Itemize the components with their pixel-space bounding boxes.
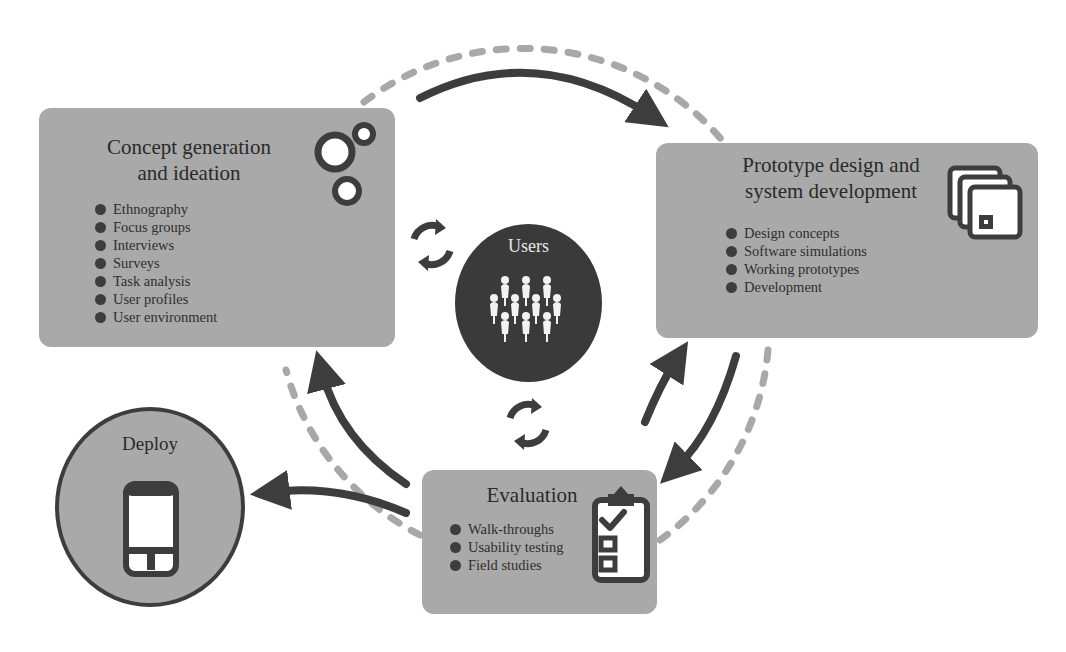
list-item: Walk-throughs: [450, 520, 563, 538]
arrow-concept-to-prototype: [420, 73, 650, 115]
list-item: Usability testing: [450, 538, 563, 556]
stacked-windows-icon: [946, 165, 1026, 241]
cycle-icon: [510, 398, 546, 450]
bullet-icon: [726, 282, 737, 293]
bullet-icon: [726, 264, 737, 275]
prototype-methods-list: Design concepts Software simulations Wor…: [726, 224, 867, 296]
bullet-icon: [95, 222, 106, 233]
list-item: Design concepts: [726, 224, 867, 242]
concept-title: Concept generation and ideation: [79, 134, 299, 186]
list-item: User profiles: [95, 290, 217, 308]
bullet-icon: [95, 204, 106, 215]
connected-circles-icon: [313, 116, 385, 212]
bullet-icon: [95, 312, 106, 323]
list-item: Surveys: [95, 254, 217, 272]
arrow-evaluation-to-deploy: [272, 490, 406, 513]
concept-generation-box: Concept generation and ideation Ethnogra…: [39, 108, 395, 347]
list-item: Task analysis: [95, 272, 217, 290]
bullet-icon: [95, 276, 106, 287]
people-group-icon: [488, 276, 570, 346]
cycle-icon: [414, 219, 450, 271]
list-item: Development: [726, 278, 867, 296]
bullet-icon: [95, 258, 106, 269]
evaluation-methods-list: Walk-throughs Usability testing Field st…: [450, 520, 563, 574]
arrow-evaluation-to-prototype: [645, 360, 676, 422]
list-item: Focus groups: [95, 218, 217, 236]
clipboard-checklist-icon: [590, 484, 652, 584]
list-item: Interviews: [95, 236, 217, 254]
evaluation-box: Evaluation Walk-throughs Usability testi…: [422, 470, 657, 614]
bullet-icon: [450, 524, 461, 535]
bullet-icon: [726, 246, 737, 257]
prototype-design-box: Prototype design and system development …: [656, 143, 1038, 338]
deploy-stage: Deploy: [55, 407, 245, 607]
deploy-label: Deploy: [59, 433, 241, 455]
users-label: Users: [455, 236, 602, 257]
list-item: Working prototypes: [726, 260, 867, 278]
bullet-icon: [726, 228, 737, 239]
bullet-icon: [450, 560, 461, 571]
list-item: User environment: [95, 308, 217, 326]
list-item: Ethnography: [95, 200, 217, 218]
concept-methods-list: Ethnography Focus groups Interviews Surv…: [95, 200, 217, 326]
smartphone-icon: [123, 481, 179, 577]
prototype-title: Prototype design and system development: [716, 152, 946, 204]
list-item: Software simulations: [726, 242, 867, 260]
arrow-prototype-to-evaluation: [676, 356, 736, 468]
arrow-evaluation-to-concept: [322, 372, 406, 484]
users-hub: Users: [455, 224, 602, 382]
list-item: Field studies: [450, 556, 563, 574]
evaluation-title: Evaluation: [482, 482, 582, 508]
bullet-icon: [450, 542, 461, 553]
bullet-icon: [95, 294, 106, 305]
bullet-icon: [95, 240, 106, 251]
